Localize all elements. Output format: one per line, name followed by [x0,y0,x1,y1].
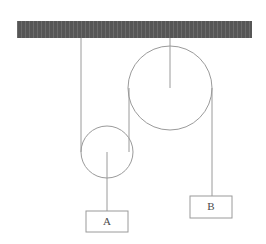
pulley-diagram: A B [0,0,266,244]
ceiling-support [17,21,252,38]
diagram-canvas: A B [0,0,266,244]
block-b-label: B [207,200,214,212]
block-a-label: A [103,215,111,227]
